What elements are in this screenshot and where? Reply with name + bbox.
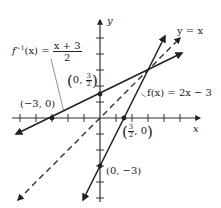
f-inverse-fraction: x + 3 2 <box>53 40 82 63</box>
fraction-denominator: 2 <box>87 81 91 88</box>
f-inverse-superscript: −1 <box>16 44 25 51</box>
f-inverse-numerator: x + 3 <box>53 40 82 52</box>
f-inverse-denominator: 2 <box>64 52 70 63</box>
y-equals-x-label: y = x <box>177 26 203 36</box>
point-0-neg3 <box>98 164 103 169</box>
point-label-neg3-0: (−3, 0) <box>20 99 55 109</box>
point-0-1.5 <box>98 92 103 97</box>
fraction-denominator: 2 <box>129 132 133 139</box>
point-label-0-neg3: (0, −3) <box>106 166 141 176</box>
y-axis <box>96 20 104 202</box>
coord-text: , 0 <box>134 125 147 136</box>
coord-text: 0, <box>73 74 83 85</box>
f-label: f(x) = 2x − 3 <box>147 88 212 98</box>
f-inverse-arg: (x) = <box>25 45 50 56</box>
x-axis <box>12 114 200 122</box>
point-label-3half-0: ( 3 2 , 0) <box>122 124 153 139</box>
x-axis-label: x <box>193 124 199 134</box>
leader-f <box>141 94 146 97</box>
point-neg3-0 <box>50 116 55 121</box>
point-1.5-0 <box>122 116 127 121</box>
y-axis-label: y <box>107 16 113 26</box>
f-inverse-label: f−1(x) = x + 3 2 <box>12 40 82 63</box>
point-label-0-3half: (0, 3 2 ) <box>67 73 98 88</box>
